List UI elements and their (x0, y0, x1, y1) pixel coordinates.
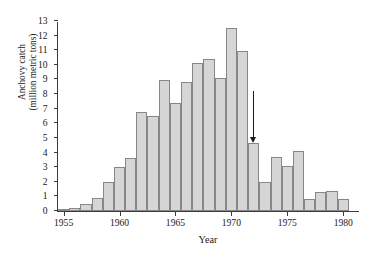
bar-1976 (293, 151, 304, 211)
y-tick-label-6: 6 (43, 119, 48, 129)
bar-1960 (114, 167, 125, 211)
y-tick-9: 9 (54, 78, 59, 79)
y-tick-label-13: 13 (38, 16, 48, 26)
bar-1973 (259, 182, 270, 211)
y-tick-2: 2 (54, 181, 59, 182)
bar-1968 (203, 59, 214, 211)
y-tick-label-4: 4 (43, 148, 48, 158)
x-tick-1965 (175, 211, 176, 216)
bar-1975 (282, 166, 293, 211)
y-tick-label-0: 0 (43, 206, 48, 216)
y-tick-4: 4 (54, 152, 59, 153)
bar-1962 (136, 112, 147, 211)
bar-1970 (226, 28, 237, 211)
bar-1972 (248, 143, 259, 211)
x-tick-label-1965: 1965 (166, 218, 185, 228)
bar-1966 (181, 82, 192, 211)
x-tick-label-1975: 1975 (278, 218, 297, 228)
y-tick-10: 10 (54, 64, 59, 65)
bar-1963 (147, 116, 158, 211)
x-tick-label-1960: 1960 (110, 218, 129, 228)
x-tick-1955 (64, 211, 65, 216)
x-tick-1975 (287, 211, 288, 216)
x-tick-label-1980: 1980 (334, 218, 353, 228)
x-tick-label-1955: 1955 (54, 218, 73, 228)
y-tick-label-11: 11 (38, 45, 47, 55)
x-tick-1980 (343, 211, 344, 216)
bar-1978 (315, 192, 326, 211)
y-tick-1: 1 (54, 195, 59, 196)
y-tick-label-5: 5 (43, 133, 48, 143)
bar-1955 (58, 209, 69, 211)
bar-1974 (271, 157, 282, 211)
bar-1957 (80, 204, 91, 211)
x-axis-label: Year (57, 234, 359, 245)
bar-1961 (125, 158, 136, 211)
bar-1956 (69, 208, 80, 211)
plot-area: 012345678910111213 195519601965197019751… (57, 22, 359, 212)
y-tick-label-1: 1 (43, 192, 48, 202)
y-tick-11: 11 (54, 49, 59, 50)
y-axis-label-line-1: Anchovy catch (17, 44, 27, 100)
y-tick-label-8: 8 (43, 89, 48, 99)
y-tick-label-9: 9 (43, 75, 48, 85)
y-tick-3: 3 (54, 166, 59, 167)
anchovy-catch-bar-chart: Anchovy catch (million metric tons) 0123… (0, 0, 372, 258)
bar-1967 (192, 63, 203, 211)
y-tick-13: 13 (54, 20, 59, 21)
y-tick-label-10: 10 (38, 60, 48, 70)
collapse-arrow-icon (249, 91, 259, 143)
y-tick-label-7: 7 (43, 104, 48, 114)
y-axis-label-line-2: (million metric tons) (28, 34, 38, 111)
bar-1980 (338, 199, 349, 211)
y-tick-7: 7 (54, 108, 59, 109)
y-tick-label-2: 2 (43, 177, 48, 187)
bar-1969 (215, 78, 226, 211)
y-tick-8: 8 (54, 93, 59, 94)
y-tick-label-12: 12 (38, 31, 48, 41)
y-tick-12: 12 (54, 35, 59, 36)
y-tick-6: 6 (54, 122, 59, 123)
bar-1959 (103, 182, 114, 211)
x-tick-label-1970: 1970 (222, 218, 241, 228)
bar-1979 (326, 191, 337, 211)
bar-1964 (159, 80, 170, 211)
bar-1958 (92, 198, 103, 211)
y-tick-label-3: 3 (43, 162, 48, 172)
x-tick-1960 (120, 211, 121, 216)
bar-1977 (304, 199, 315, 211)
bar-1965 (170, 103, 181, 211)
bar-1971 (237, 51, 248, 211)
y-tick-5: 5 (54, 137, 59, 138)
x-tick-1970 (231, 211, 232, 216)
